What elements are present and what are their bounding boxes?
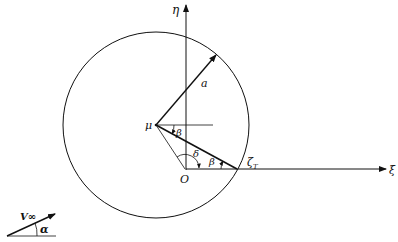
freestream-label: V∞: [20, 211, 36, 222]
angle-beta-bottom-arc: [221, 161, 223, 169]
alpha-label: α: [40, 223, 49, 236]
mu-to-trailing-line: [156, 125, 237, 169]
xi-label: ξ: [389, 164, 396, 177]
delta-label: δ: [193, 148, 199, 159]
eta-label: η: [172, 3, 180, 17]
radius-label: a: [201, 77, 208, 90]
angle-alpha-arc: [35, 223, 37, 236]
circle-diagram: η ξ a μ O ζT β β δ V∞ α: [0, 0, 398, 242]
center-label: μ: [145, 119, 152, 132]
zeta-subscript: T: [253, 163, 259, 171]
beta-bottom-label: β: [208, 156, 215, 167]
angle-beta-top-arc: [172, 125, 174, 134]
trailing-point-label: ζT: [247, 156, 259, 171]
center-point: [155, 124, 158, 127]
origin-label: O: [180, 173, 189, 186]
beta-top-label: β: [175, 127, 182, 138]
